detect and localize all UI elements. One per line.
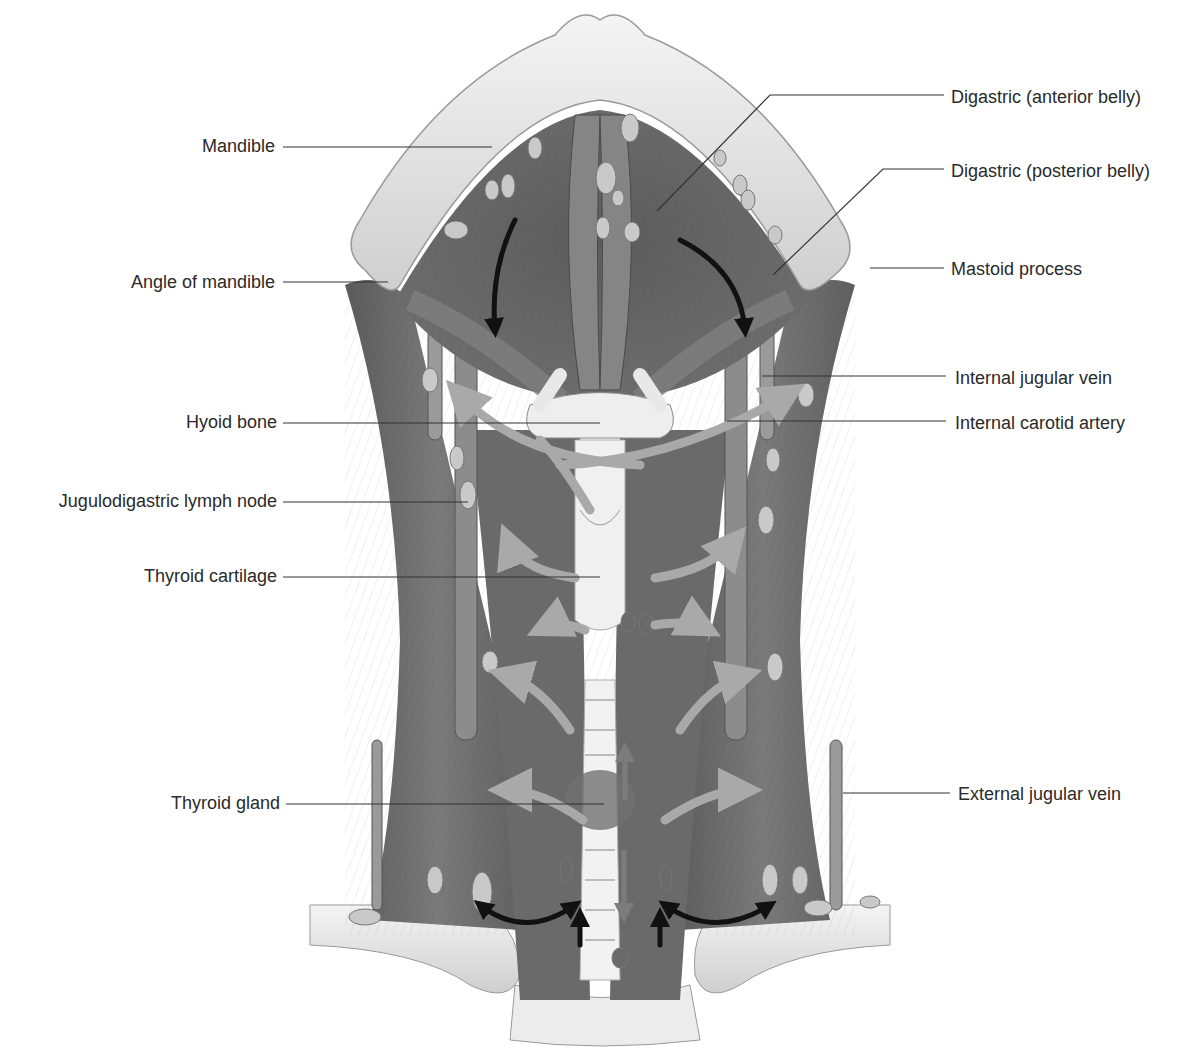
- label-thyroid-gland: Thyroid gland: [171, 792, 280, 814]
- label-internal-carotid-artery: Internal carotid artery: [955, 412, 1125, 434]
- label-hyoid-bone: Hyoid bone: [186, 411, 277, 433]
- label-external-jugular-vein: External jugular vein: [958, 783, 1121, 805]
- label-internal-jugular-vein: Internal jugular vein: [955, 367, 1112, 389]
- label-angle-of-mandible: Angle of mandible: [131, 271, 275, 293]
- label-mastoid-process: Mastoid process: [951, 258, 1082, 280]
- label-jugulodigastric-lymph-node: Jugulodigastric lymph node: [59, 490, 277, 512]
- label-digastric-anterior-belly: Digastric (anterior belly): [951, 86, 1141, 108]
- neck-anatomy-illustration: [0, 0, 1201, 1052]
- label-mandible: Mandible: [202, 135, 275, 157]
- label-thyroid-cartilage: Thyroid cartilage: [144, 565, 277, 587]
- label-digastric-posterior-belly: Digastric (posterior belly): [951, 160, 1150, 182]
